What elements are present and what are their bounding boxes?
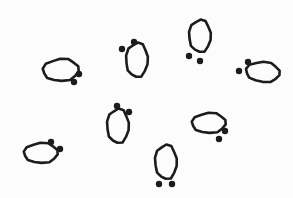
footprint-lower-left bbox=[23, 139, 63, 164]
footprint-upper-left bbox=[42, 57, 82, 85]
footprint-center-dot-1 bbox=[114, 103, 120, 109]
footprint-top-right-oval-outline bbox=[188, 19, 211, 52]
footprint-upper-left-dot-1 bbox=[76, 71, 82, 77]
footprint-bottom-center-dot-2 bbox=[169, 181, 175, 187]
footprint-top-center-left-oval-outline bbox=[125, 42, 149, 77]
footprint-top-right-dot-1 bbox=[186, 53, 192, 59]
footprint-right-dot-2 bbox=[236, 68, 242, 74]
footprint-lower-left-dot-1 bbox=[48, 139, 54, 145]
footprint-lower-left-oval-outline bbox=[23, 142, 58, 164]
footprint-top-right bbox=[186, 19, 211, 64]
footprint-bottom-center-dot-1 bbox=[156, 181, 162, 187]
glyph-surface bbox=[0, 0, 293, 198]
footprint-top-center-left bbox=[119, 39, 149, 78]
footprint-center-dot-2 bbox=[126, 109, 132, 115]
footprint-top-center-left-dot-2 bbox=[119, 46, 125, 52]
footprint-lower-left-dot-2 bbox=[57, 146, 63, 152]
footprint-middle-right bbox=[191, 112, 228, 142]
footprint-bottom-center-oval-outline bbox=[155, 144, 177, 179]
footprint-center-oval-outline bbox=[106, 108, 129, 143]
footprint-upper-left-dot-2 bbox=[71, 79, 77, 85]
footprint-top-right-dot-2 bbox=[197, 58, 203, 64]
footprint-upper-left-oval-outline bbox=[42, 57, 79, 82]
footprint-right-oval-outline bbox=[245, 61, 280, 83]
footprint-center bbox=[106, 103, 132, 143]
drawing-canvas bbox=[0, 0, 293, 198]
footprint-middle-right-dot-1 bbox=[222, 128, 228, 134]
footprint-middle-right-oval-outline bbox=[191, 112, 226, 134]
footprint-top-center-left-dot-1 bbox=[131, 39, 137, 45]
footprint-middle-right-dot-2 bbox=[216, 136, 222, 142]
footprint-bottom-center bbox=[155, 144, 177, 187]
footprint-right-dot-1 bbox=[245, 59, 251, 65]
footprint-right bbox=[236, 59, 280, 83]
